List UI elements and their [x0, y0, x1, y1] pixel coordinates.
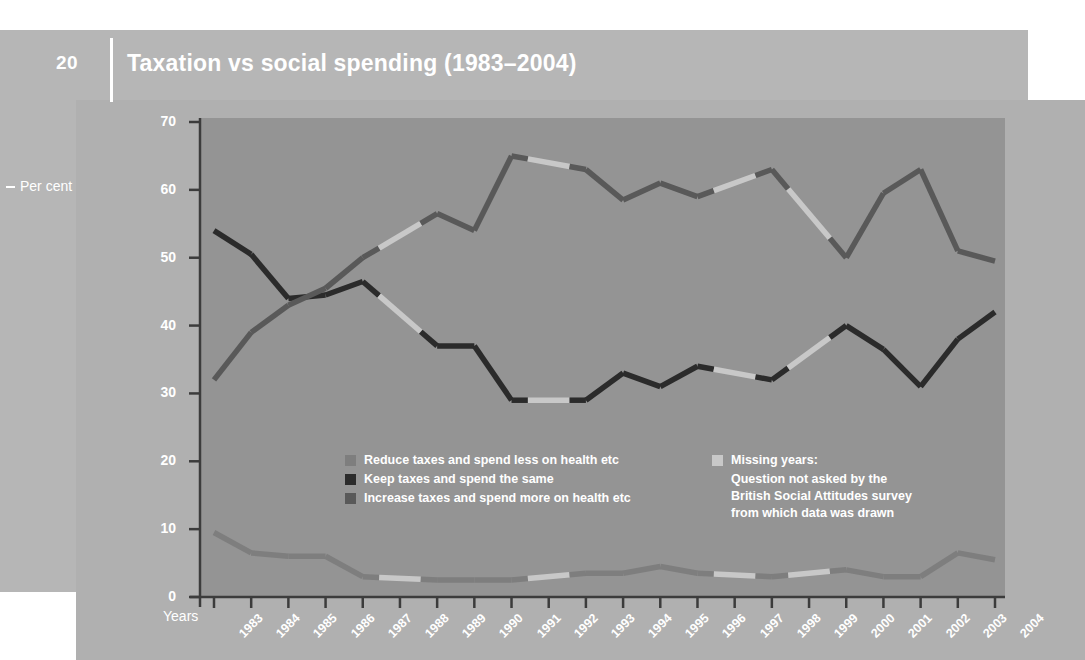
y-axis-tick: 0 [142, 588, 176, 604]
missing-years-legend: Missing years: Question not asked by the… [712, 452, 912, 522]
legend-item: Reduce taxes and spend less on health et… [345, 452, 631, 469]
missing-years-line3: British Social Attitudes survey [731, 488, 912, 505]
legend-swatch-reduce [345, 455, 356, 466]
y-axis-tick: 50 [142, 249, 176, 265]
legend-item: Increase taxes and spend more on health … [345, 490, 631, 507]
legend-swatch-increase [345, 493, 356, 504]
legend-label: Keep taxes and spend the same [364, 471, 554, 488]
legend-label: Increase taxes and spend more on health … [364, 490, 631, 507]
legend-item: Keep taxes and spend the same [345, 471, 631, 488]
y-axis-tick: 10 [142, 520, 176, 536]
y-axis-tick: 30 [142, 384, 176, 400]
y-axis-tick: 60 [142, 181, 176, 197]
legend-item: Missing years: [712, 452, 912, 469]
legend-swatch-missing [712, 455, 723, 466]
missing-years-line2: Question not asked by the [731, 471, 912, 488]
missing-years-line4: from which data was drawn [731, 505, 912, 522]
legend-swatch-keep [345, 474, 356, 485]
legend-label: Reduce taxes and spend less on health et… [364, 452, 619, 469]
y-axis-tick: 70 [142, 113, 176, 129]
missing-years-heading: Missing years: [731, 452, 818, 469]
page-root: 20 Taxation vs social spending (1983–200… [0, 0, 1085, 660]
series-legend: Reduce taxes and spend less on health et… [345, 452, 631, 509]
y-axis-tick: 40 [142, 317, 176, 333]
y-axis-tick: 20 [142, 452, 176, 468]
